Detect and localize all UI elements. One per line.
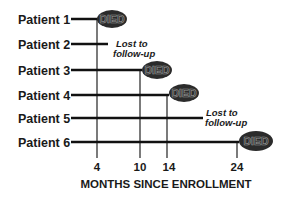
died-label: DIED <box>243 135 269 147</box>
lost-line2: follow-up <box>205 117 247 128</box>
patient-5-label: Patient 5 <box>18 112 70 126</box>
lost-line2: follow-up <box>113 48 155 59</box>
died-label: DIED <box>144 64 170 76</box>
tick-4: 4 <box>94 161 101 173</box>
tick-14: 14 <box>163 161 176 173</box>
x-axis-title: MONTHS SINCE ENROLLMENT <box>80 178 251 190</box>
patient-3-label: Patient 3 <box>18 64 70 78</box>
tick-10: 10 <box>134 161 147 173</box>
tick-24: 24 <box>231 161 244 173</box>
patient-timeline-chart: Patient 1 Patient 2 Patient 3 Patient 4 … <box>0 0 291 199</box>
died-label: DIED <box>99 13 125 25</box>
patient-6-label: Patient 6 <box>18 136 70 150</box>
died-label: DIED <box>171 87 197 99</box>
patient-2-label: Patient 2 <box>18 38 70 52</box>
lost-annotation-patient-5: Lost to follow-up <box>205 107 247 128</box>
patient-4-label: Patient 4 <box>18 89 70 103</box>
died-marker-patient-1: DIED <box>97 10 127 28</box>
died-marker-patient-4: DIED <box>169 84 199 102</box>
died-marker-patient-3: DIED <box>142 61 172 79</box>
lost-annotation-patient-2: Lost to follow-up <box>113 38 155 59</box>
patient-1-label: Patient 1 <box>18 13 70 27</box>
died-marker-patient-6: DIED <box>239 131 273 151</box>
